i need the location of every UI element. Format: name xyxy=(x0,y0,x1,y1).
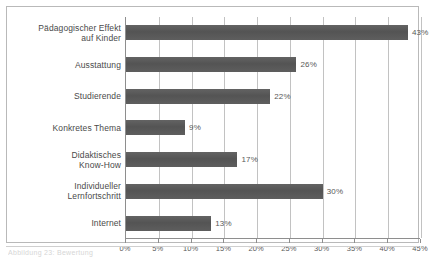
x-tick xyxy=(354,239,355,243)
bar[interactable] xyxy=(126,25,408,40)
bar[interactable] xyxy=(126,89,270,104)
gridline xyxy=(421,17,422,238)
bar-value-label: 13% xyxy=(215,219,232,228)
bar-value-label: 43% xyxy=(412,28,429,37)
category-label: Internet xyxy=(15,218,121,228)
bar-row: 43% xyxy=(126,17,420,49)
x-tick xyxy=(387,239,388,243)
bar[interactable] xyxy=(126,120,185,135)
bar-row: 26% xyxy=(126,49,420,81)
category-label: DidaktischesKnow-How xyxy=(15,150,121,170)
x-tick xyxy=(420,239,421,243)
bar-row: 9% xyxy=(126,112,420,144)
bar-value-label: 22% xyxy=(274,92,291,101)
category-label: Pädagogischer Effektauf Kinder xyxy=(15,23,121,43)
figure-caption: Abbildung 23: Bewertung xyxy=(8,249,308,258)
caption-divider xyxy=(6,246,419,247)
bar-value-label: 17% xyxy=(241,155,258,164)
bar-value-label: 30% xyxy=(327,187,344,196)
bar-value-label: 9% xyxy=(189,123,201,132)
bar-row: 13% xyxy=(126,207,420,239)
category-label: Ausstattung xyxy=(15,60,121,70)
plot-area: 43%26%22%9%17%30%13% xyxy=(125,17,420,239)
bar[interactable] xyxy=(126,152,237,167)
x-tick xyxy=(256,239,257,243)
bar-value-label: 26% xyxy=(300,60,317,69)
category-label: Konkretes Thema xyxy=(15,123,121,133)
x-tick xyxy=(158,239,159,243)
bar[interactable] xyxy=(126,216,211,231)
x-tick xyxy=(322,239,323,243)
x-tick xyxy=(223,239,224,243)
bar-row: 17% xyxy=(126,144,420,176)
category-axis-labels: Pädagogischer Effektauf KinderAusstattun… xyxy=(15,17,125,239)
bar[interactable] xyxy=(126,184,323,199)
category-label: IndividuellerLernfortschritt xyxy=(15,181,121,201)
x-tick xyxy=(289,239,290,243)
bar-row: 30% xyxy=(126,176,420,208)
x-tick xyxy=(191,239,192,243)
bar-row: 22% xyxy=(126,80,420,112)
category-label: Studierende xyxy=(15,91,121,101)
bar[interactable] xyxy=(126,57,296,72)
chart-frame: 43%26%22%9%17%30%13% Pädagogischer Effek… xyxy=(6,6,419,243)
x-tick xyxy=(125,239,126,243)
